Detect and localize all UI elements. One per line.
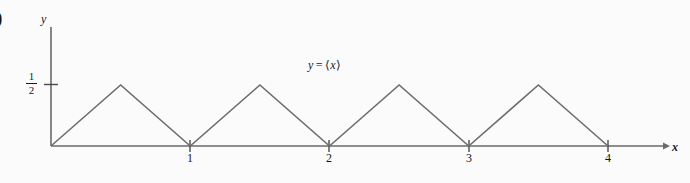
y-tick-label-one-half: 1 2 <box>24 71 39 96</box>
curve-equation-lhs: y <box>308 58 314 72</box>
fraction-denominator: 2 <box>24 84 39 96</box>
triangle-wave-curve <box>51 85 608 146</box>
x-tick-label-4: 4 <box>605 152 611 164</box>
plot-canvas <box>0 0 690 183</box>
fraction-numerator: 1 <box>24 71 39 83</box>
curve-equation-label: y=⟨x⟩ <box>308 59 341 71</box>
y-axis-label: y <box>41 13 46 25</box>
curve-equation-close-bracket: ⟩ <box>336 58 341 72</box>
enumeration-marker: ) <box>0 8 2 27</box>
x-tick-label-3: 3 <box>466 152 472 164</box>
curve-equation-operator: = <box>314 58 325 72</box>
x-axis-label: x <box>672 141 678 153</box>
figure-triangle-wave-plot: ) y x y=⟨x⟩ 1 2 1 2 3 4 <box>0 0 690 183</box>
x-tick-label-2: 2 <box>326 152 332 164</box>
x-axis-arrowhead <box>663 142 670 149</box>
x-tick-label-1: 1 <box>187 152 193 164</box>
